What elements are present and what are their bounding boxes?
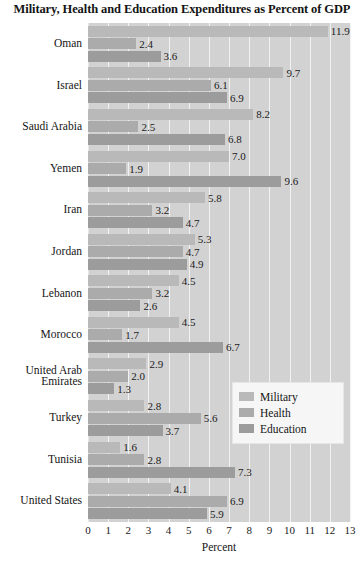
category-label-line: Emirates xyxy=(25,376,82,388)
category-label-line: Saudi Arabia xyxy=(22,121,82,133)
bar-military xyxy=(88,275,179,286)
bar-education xyxy=(88,425,163,436)
bar-value-label: 4.7 xyxy=(183,246,200,258)
bar-value-label: 5.6 xyxy=(201,412,218,424)
x-axis-title: Percent xyxy=(88,541,350,553)
category-label-line: Oman xyxy=(54,38,82,50)
category-label-line: Morocco xyxy=(40,329,82,341)
bar-military xyxy=(88,151,229,162)
bar-military xyxy=(88,400,144,411)
bar-value-label: 4.5 xyxy=(179,275,196,287)
bar-military xyxy=(88,234,195,245)
bar-health xyxy=(88,329,122,340)
category-label: United States xyxy=(20,495,82,507)
bar-military xyxy=(88,109,253,120)
bar-value-label: 1.9 xyxy=(126,163,143,175)
bar-value-label: 7.0 xyxy=(229,150,246,162)
category-label-line: Tunisia xyxy=(48,454,82,466)
bar-value-label: 2.9 xyxy=(146,358,163,370)
bar-value-label: 3.7 xyxy=(163,425,180,437)
category-label-line: Jordan xyxy=(51,246,82,258)
category-label: Turkey xyxy=(49,412,82,424)
bar-value-label: 2.6 xyxy=(140,300,157,312)
bar-value-label: 4.9 xyxy=(187,258,204,270)
bar-value-label: 5.8 xyxy=(205,192,222,204)
chart-root: Military, Health and Education Expenditu… xyxy=(0,0,364,565)
x-tick-label: 12 xyxy=(324,524,335,536)
bar-health xyxy=(88,371,128,382)
x-tick-label: 10 xyxy=(284,524,295,536)
x-tick-label: 5 xyxy=(186,524,192,536)
bar-value-label: 4.5 xyxy=(179,316,196,328)
bar-value-label: 3.6 xyxy=(161,50,178,62)
bar-education xyxy=(88,508,207,519)
bar-value-label: 6.9 xyxy=(227,92,244,104)
bar-education xyxy=(88,342,223,353)
plot-area: 11.92.43.69.76.16.98.22.56.87.01.99.65.8… xyxy=(88,23,350,522)
bar-value-label: 5.3 xyxy=(195,233,212,245)
bar-group: 9.76.16.9 xyxy=(88,65,350,107)
category-label-line: Iran xyxy=(63,204,82,216)
bar-value-label: 6.9 xyxy=(227,495,244,507)
category-label: Iran xyxy=(63,204,82,216)
bar-education xyxy=(88,51,161,62)
bar-group: 4.51.76.7 xyxy=(88,314,350,356)
bar-health xyxy=(88,496,227,507)
bar-value-label: 3.2 xyxy=(152,287,169,299)
bar-group: 11.92.43.6 xyxy=(88,23,350,65)
legend-item[interactable]: Education xyxy=(239,421,337,436)
category-label-line: Yemen xyxy=(50,163,82,175)
x-tick-label: 3 xyxy=(146,524,152,536)
bar-value-label: 8.2 xyxy=(253,108,270,120)
bar-group: 7.01.99.6 xyxy=(88,148,350,190)
bar-education xyxy=(88,259,187,270)
x-tick-label: 11 xyxy=(304,524,315,536)
bar-value-label: 2.8 xyxy=(144,454,161,466)
bar-health xyxy=(88,38,136,49)
category-label: Lebanon xyxy=(42,288,82,300)
legend-swatch-icon xyxy=(239,424,254,433)
category-label: Morocco xyxy=(40,329,82,341)
bar-groups: 11.92.43.69.76.16.98.22.56.87.01.99.65.8… xyxy=(88,23,350,522)
bar-health xyxy=(88,413,201,424)
bar-education xyxy=(88,300,140,311)
x-axis-ticks: 012345678910111213 xyxy=(88,524,350,540)
category-label-line: Lebanon xyxy=(42,288,82,300)
bar-health xyxy=(88,121,138,132)
bar-health xyxy=(88,288,152,299)
bar-group: 8.22.56.8 xyxy=(88,106,350,148)
bar-military xyxy=(88,358,146,369)
x-tick-label: 13 xyxy=(345,524,356,536)
bar-health xyxy=(88,205,152,216)
bar-value-label: 3.2 xyxy=(152,204,169,216)
bar-value-label: 2.0 xyxy=(128,370,145,382)
bar-value-label: 9.6 xyxy=(281,175,298,187)
bar-value-label: 2.5 xyxy=(138,121,155,133)
category-label: Tunisia xyxy=(48,454,82,466)
category-label: Israel xyxy=(56,80,82,92)
bar-health xyxy=(88,454,144,465)
bar-value-label: 5.9 xyxy=(207,508,224,520)
bar-education xyxy=(88,383,114,394)
bar-value-label: 7.3 xyxy=(235,466,252,478)
bar-military xyxy=(88,442,120,453)
bar-value-label: 1.3 xyxy=(114,383,131,395)
legend-item[interactable]: Military xyxy=(239,389,337,404)
category-label-line: Turkey xyxy=(49,412,82,424)
category-label: Yemen xyxy=(50,163,82,175)
bar-military xyxy=(88,67,283,78)
bar-education xyxy=(88,92,227,103)
legend-label: Health xyxy=(260,407,291,419)
x-tick-label: 4 xyxy=(166,524,172,536)
bar-value-label: 1.6 xyxy=(120,441,137,453)
legend-swatch-icon xyxy=(239,408,254,417)
category-axis-labels: OmanIsraelSaudi ArabiaYemenIranJordanLeb… xyxy=(0,23,86,522)
category-label: United ArabEmirates xyxy=(25,365,82,388)
category-label-line: United States xyxy=(20,495,82,507)
bar-value-label: 4.1 xyxy=(171,483,188,495)
legend-label: Military xyxy=(260,391,298,403)
x-tick-label: 8 xyxy=(246,524,252,536)
category-label: Jordan xyxy=(51,246,82,258)
legend-item[interactable]: Health xyxy=(239,405,337,420)
bar-military xyxy=(88,26,328,37)
